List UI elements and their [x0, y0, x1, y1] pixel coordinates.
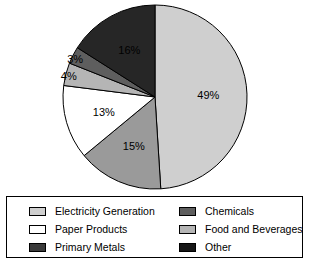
legend-item-other: Other: [167, 238, 304, 256]
legend-swatch-other: [179, 243, 196, 252]
pie-slice-group: [63, 5, 247, 189]
pie-slice-label: 16%: [118, 44, 140, 56]
legend-label-electricity-generation: Electricity Generation: [55, 206, 155, 217]
legend-swatch-primary-metals: [29, 243, 46, 252]
legend-swatch-paper-products: [29, 225, 46, 234]
legend-swatch-chemicals: [179, 207, 196, 216]
legend-item-electricity-generation: Electricity Generation: [7, 202, 167, 220]
pie-svg: 49%15%13%4%3%16%: [0, 0, 311, 190]
legend-swatch-food-and-beverages: [179, 225, 196, 234]
legend-label-other: Other: [205, 242, 231, 253]
pie-slice-label: 4%: [61, 70, 77, 82]
legend-label-paper-products: Paper Products: [55, 224, 127, 235]
pie-plot-area: 49%15%13%4%3%16%: [0, 0, 311, 190]
legend-item-paper-products: Paper Products: [7, 220, 167, 238]
pie-slice-label: 13%: [93, 106, 115, 118]
chart-legend: Electricity Generation Chemicals Paper P…: [6, 196, 303, 258]
legend-label-primary-metals: Primary Metals: [55, 242, 125, 253]
legend-swatch-electricity-generation: [29, 207, 46, 216]
legend-item-chemicals: Chemicals: [167, 202, 304, 220]
pie-slice-label: 15%: [123, 140, 145, 152]
legend-item-primary-metals: Primary Metals: [7, 238, 167, 256]
pie-chart-figure: 49%15%13%4%3%16% Electricity Generation …: [0, 0, 311, 264]
legend-grid: Electricity Generation Chemicals Paper P…: [7, 202, 302, 256]
pie-slice-label: 49%: [197, 89, 219, 101]
legend-label-food-and-beverages: Food and Beverages: [205, 224, 302, 235]
legend-item-food-and-beverages: Food and Beverages: [167, 220, 304, 238]
legend-label-chemicals: Chemicals: [205, 206, 254, 217]
pie-slice-label: 3%: [67, 53, 83, 65]
